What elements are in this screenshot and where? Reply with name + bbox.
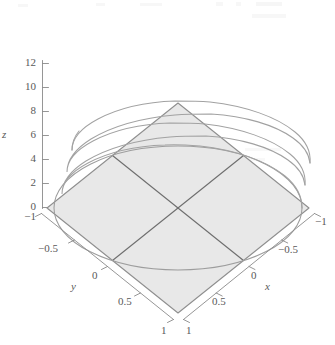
z-axis-label: z [2, 129, 6, 140]
y-tick-label-minus-0-5: −0.5 [38, 243, 58, 254]
x-tick-label-1: 1 [186, 325, 192, 336]
z-axis [43, 61, 49, 209]
z-tick-label-10: 10 [12, 81, 36, 92]
y-tick-label-0-5: 0.5 [118, 296, 132, 307]
y-tick-label-1: 1 [161, 325, 167, 336]
x-tick-label-0-5: 0.5 [212, 296, 226, 307]
z-tick-label-4: 4 [12, 153, 36, 164]
x-tick-label-0: 0 [251, 270, 257, 281]
z-tick-label-8: 8 [12, 105, 36, 116]
origin-minus-one-label: −1 [12, 211, 36, 222]
z-tick-label-2: 2 [12, 177, 36, 188]
z-tick-label-12: 12 [12, 57, 36, 68]
x-tick-label-minus-0-5: −0.5 [278, 244, 298, 255]
plot-canvas [0, 0, 335, 345]
x-axis-label: x [265, 281, 270, 292]
y-axis-label: y [71, 281, 76, 292]
y-tick-label-0: 0 [92, 270, 98, 281]
z-tick-label-6: 6 [12, 129, 36, 140]
x-tick-label-minus-1: −1 [315, 216, 327, 227]
